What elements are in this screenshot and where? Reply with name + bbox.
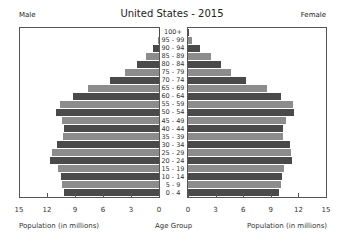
x-tick-label: 15 [11, 206, 27, 214]
x-tick-label: 15 [318, 206, 334, 214]
female-bar [188, 125, 283, 132]
male-bar [58, 165, 159, 172]
x-tick [271, 193, 272, 197]
x-tick-label: 9 [263, 206, 279, 214]
x-tick [326, 193, 327, 197]
age-group-label: 75 - 79 [159, 68, 187, 76]
female-bar [188, 165, 284, 172]
female-bar [188, 45, 200, 52]
male-bar [62, 117, 159, 124]
x-tick [131, 193, 132, 197]
x-tick-label: 6 [95, 206, 111, 214]
female-bar [188, 157, 292, 164]
age-group-label: 90 - 94 [159, 44, 187, 52]
male-bar [73, 93, 159, 100]
male-bar [56, 109, 159, 116]
male-bar [125, 69, 159, 76]
age-group-label: 20 - 24 [159, 157, 187, 165]
female-bar [188, 77, 246, 84]
female-bar [188, 133, 283, 140]
x-tick [75, 193, 76, 197]
male-bar [62, 181, 159, 188]
female-bar [188, 85, 267, 92]
age-group-label: 15 - 19 [159, 165, 187, 173]
male-bar [60, 101, 159, 108]
x-tick-label: 9 [67, 206, 83, 214]
age-group-label: 50 - 54 [159, 108, 187, 116]
age-group-label: 70 - 74 [159, 76, 187, 84]
female-bar [188, 29, 189, 36]
age-group-label: 30 - 34 [159, 141, 187, 149]
male-bar [64, 125, 159, 132]
x-tick [103, 193, 104, 197]
age-group-label: 25 - 29 [159, 149, 187, 157]
male-bar [137, 61, 159, 68]
female-label: Female [301, 11, 326, 19]
x-tick [298, 193, 299, 197]
female-bar [188, 189, 279, 196]
age-group-label: 10 - 14 [159, 173, 187, 181]
male-bar [88, 85, 159, 92]
female-bar [188, 141, 290, 148]
x-tick-label: 0 [180, 206, 196, 214]
x-tick [243, 193, 244, 197]
x-axis-label-right: Population (in millions) [247, 222, 327, 230]
x-tick [216, 193, 217, 197]
age-group-label: 95 - 99 [159, 36, 187, 44]
x-tick [159, 193, 160, 197]
female-bar [188, 53, 211, 60]
female-bar [188, 173, 282, 180]
x-tick [19, 193, 20, 197]
x-tick-label: 3 [208, 206, 224, 214]
age-group-label: 40 - 44 [159, 125, 187, 133]
male-bar [61, 173, 159, 180]
female-bar [188, 37, 192, 44]
age-group-label: 35 - 39 [159, 133, 187, 141]
x-axis-label-center: Age Group [155, 222, 192, 230]
female-bar [188, 69, 231, 76]
female-bar [188, 149, 291, 156]
male-bar [64, 189, 159, 196]
x-axis-label-left: Population (in millions) [19, 222, 99, 230]
female-bar [188, 61, 221, 68]
x-tick-label: 0 [151, 206, 167, 214]
male-bar [110, 77, 159, 84]
age-group-label: 80 - 84 [159, 60, 187, 68]
chart-title: United States - 2015 [0, 8, 344, 19]
age-group-label: 65 - 69 [159, 84, 187, 92]
x-tick-label: 6 [235, 206, 251, 214]
age-group-label: 5 - 9 [159, 181, 187, 189]
female-bar [188, 181, 281, 188]
age-group-label: 85 - 89 [159, 52, 187, 60]
age-group-label: 100+ [159, 28, 187, 36]
x-tick [47, 193, 48, 197]
x-tick [188, 193, 189, 197]
male-bar [57, 141, 159, 148]
x-tick-label: 3 [123, 206, 139, 214]
female-bar [188, 117, 286, 124]
age-group-label: 60 - 64 [159, 92, 187, 100]
x-tick-label: 12 [39, 206, 55, 214]
male-bar [50, 157, 159, 164]
age-group-label: 55 - 59 [159, 100, 187, 108]
male-bar [52, 149, 159, 156]
female-bar [188, 93, 281, 100]
male-bar [63, 133, 159, 140]
male-bar [146, 53, 159, 60]
age-group-label: 0 - 4 [159, 189, 187, 197]
x-tick-label: 12 [290, 206, 306, 214]
age-group-label: 45 - 49 [159, 117, 187, 125]
female-bar [188, 109, 294, 116]
female-bar [188, 101, 293, 108]
